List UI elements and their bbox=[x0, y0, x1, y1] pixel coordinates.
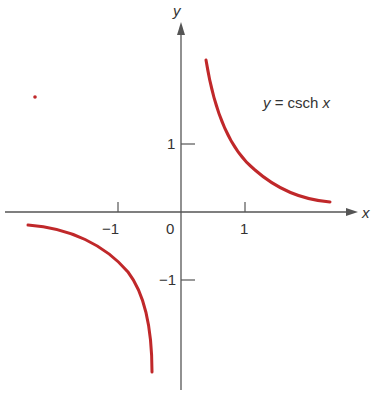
y-axis-arrow-icon bbox=[177, 22, 185, 35]
y-axis-label: y bbox=[172, 2, 182, 19]
x-tick-label-neg1: −1 bbox=[102, 220, 119, 237]
equation-function: = csch bbox=[271, 94, 323, 111]
x-axis-label: x bbox=[361, 204, 370, 221]
x-axis-arrow-icon bbox=[346, 208, 358, 216]
y-tick-label-1: 1 bbox=[167, 135, 175, 152]
stray-dot bbox=[33, 95, 37, 99]
x-tick-label-0: 0 bbox=[166, 220, 174, 237]
csch-curve-positive bbox=[206, 60, 330, 202]
csch-graph: x y −1 0 1 1 −1 y = csch x bbox=[0, 0, 380, 395]
csch-curve-negative bbox=[28, 225, 152, 372]
equation-label: y = csch x bbox=[262, 94, 331, 111]
x-tick-label-1: 1 bbox=[240, 220, 248, 237]
equation-x: x bbox=[322, 94, 331, 111]
y-tick-label-neg1: −1 bbox=[159, 271, 176, 288]
